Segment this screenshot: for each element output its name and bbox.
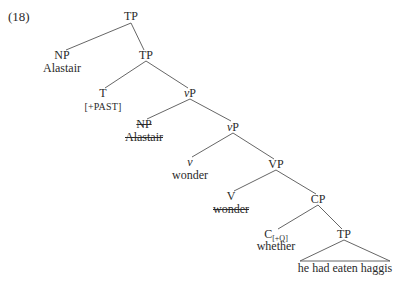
node-vp1: vP bbox=[184, 87, 196, 100]
node-np-copy-word: Alastair bbox=[125, 131, 163, 144]
node-vp: VP bbox=[268, 158, 283, 171]
node-vp2: vP bbox=[227, 121, 239, 134]
node-cp: CP bbox=[311, 193, 326, 206]
node-np-word: Alastair bbox=[43, 62, 81, 75]
vp1-p: P bbox=[189, 86, 196, 100]
node-tp2: TP bbox=[139, 49, 153, 62]
node-root-tp: TP bbox=[124, 10, 138, 23]
node-c-word: whether bbox=[257, 240, 296, 253]
example-number: (18) bbox=[8, 9, 30, 25]
node-tp3-words: he had eaten haggis bbox=[298, 262, 392, 275]
node-little-v-word: wonder bbox=[172, 169, 208, 182]
node-tp3: TP bbox=[337, 228, 351, 241]
node-t: T bbox=[99, 87, 106, 100]
node-t-feature: [+PAST] bbox=[84, 100, 121, 113]
vp2-p: P bbox=[232, 120, 239, 134]
node-v-copy-word: wonder bbox=[213, 203, 249, 216]
tree-branches bbox=[0, 0, 404, 284]
